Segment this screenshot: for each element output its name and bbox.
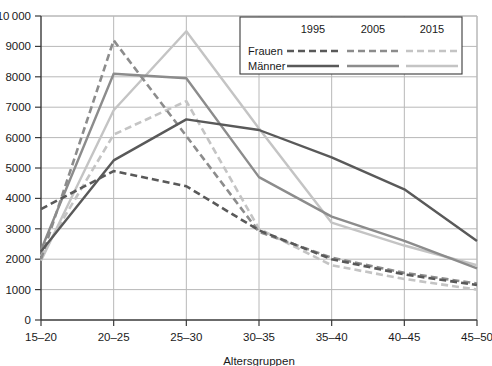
x-tick-label: 25–30 [170,331,202,343]
legend: 199520052015FrauenMänner [240,17,462,74]
y-tick-label: 1000 [5,284,31,296]
y-tick-label: 0 [25,314,31,326]
y-tick-label: 5000 [5,162,31,174]
y-tick-label: 4000 [5,192,31,204]
x-tick-label: 45–50 [461,331,492,343]
x-tick-label: 15–20 [25,331,57,343]
legend-year-2005: 2005 [361,23,385,35]
y-tick-label: 2000 [5,253,31,265]
y-tick-label: 10 000 [0,10,31,22]
legend-year-1995: 1995 [301,23,325,35]
x-tick-label: 40–45 [388,331,420,343]
y-axis: 010002000300040005000600070008000900010 … [0,10,41,326]
y-tick-label: 6000 [5,132,31,144]
x-tick-label: 35–40 [316,331,348,343]
line-chart: 010002000300040005000600070008000900010 … [0,0,492,366]
y-tick-label: 3000 [5,223,31,235]
legend-row-label-männer: Männer [248,60,286,72]
legend-row-label-frauen: Frauen [248,45,283,57]
chart-canvas: 010002000300040005000600070008000900010 … [0,0,492,366]
legend-year-2015: 2015 [420,23,444,35]
x-tick-label: 30–35 [243,331,275,343]
y-tick-label: 8000 [5,71,31,83]
y-tick-label: 7000 [5,101,31,113]
y-tick-label: 9000 [5,40,31,52]
x-axis: 15–2020–2525–3030–3535–4040–4545–50Alter… [25,320,492,366]
x-tick-label: 20–25 [98,331,130,343]
x-axis-title: Altersgruppen [223,355,295,366]
